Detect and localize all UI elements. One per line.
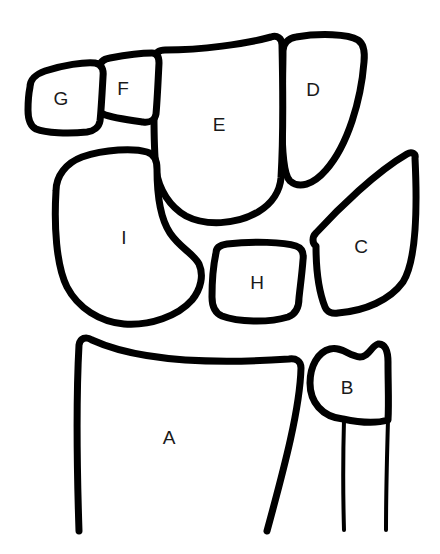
ulna-shaft-left-line xyxy=(343,420,344,530)
carpal-bone-diagram: A B C D E F G H I xyxy=(0,0,440,554)
bone-shape-f[interactable] xyxy=(98,53,159,122)
bone-shape-e[interactable] xyxy=(154,36,283,222)
bone-shape-c[interactable] xyxy=(313,153,416,313)
bone-shape-g[interactable] xyxy=(28,63,103,133)
bone-shape-d[interactable] xyxy=(282,35,364,185)
ulna-shaft-right-line xyxy=(386,420,388,530)
bone-diagram-canvas: A B C D E F G H I xyxy=(0,0,440,554)
bone-shape-a[interactable] xyxy=(77,338,301,531)
bone-shape-h[interactable] xyxy=(212,242,303,321)
bone-shape-b[interactable] xyxy=(310,344,388,422)
